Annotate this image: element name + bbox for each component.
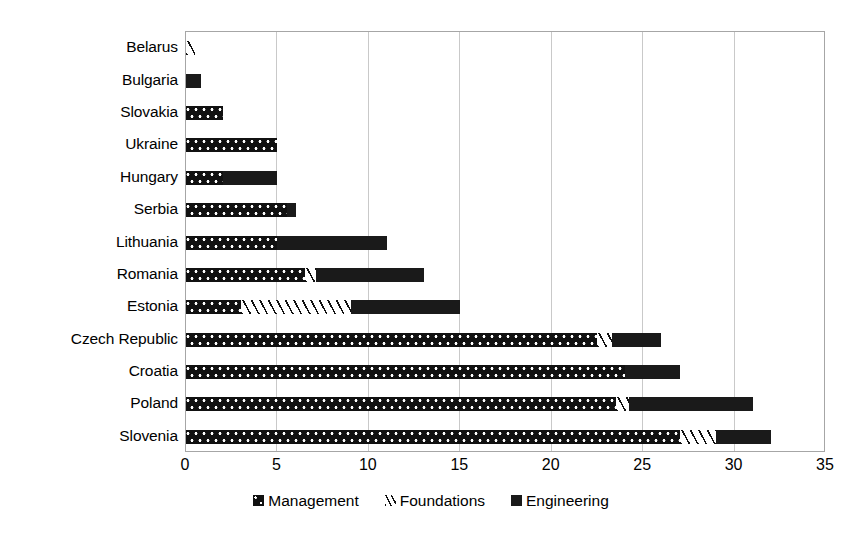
category-label-slovenia: Slovenia bbox=[0, 428, 178, 444]
bar-segment-engineering[interactable] bbox=[625, 365, 680, 379]
solid-swatch bbox=[511, 495, 522, 506]
category-label-croatia: Croatia bbox=[0, 363, 178, 379]
bar-segment-foundations[interactable] bbox=[597, 333, 612, 347]
bar-segment-engineering[interactable] bbox=[223, 171, 278, 185]
cross-hatch-swatch bbox=[253, 495, 264, 506]
category-label-estonia: Estonia bbox=[0, 298, 178, 314]
bar-row[interactable] bbox=[186, 74, 826, 88]
bar-segment-engineering[interactable] bbox=[287, 203, 296, 217]
bar-segment-management[interactable] bbox=[186, 397, 616, 411]
x-axis-tick-labels: 05101520253035 bbox=[0, 457, 862, 481]
bar-segment-management[interactable] bbox=[186, 430, 680, 444]
category-label-bulgaria: Bulgaria bbox=[0, 72, 178, 88]
bar-row[interactable] bbox=[186, 138, 826, 152]
legend-item-engineering[interactable]: Engineering bbox=[511, 493, 609, 509]
x-axis-tick-0: 0 bbox=[181, 457, 190, 473]
bar-segment-engineering[interactable] bbox=[629, 397, 753, 411]
bar-segment-management[interactable] bbox=[186, 268, 305, 282]
bar-row[interactable] bbox=[186, 397, 826, 411]
x-axis-tick-15: 15 bbox=[450, 457, 468, 473]
bar-segment-foundations[interactable] bbox=[186, 41, 195, 55]
bar-segment-engineering[interactable] bbox=[612, 333, 661, 347]
category-axis-labels: BelarusBulgariaSlovakiaUkraineHungarySer… bbox=[0, 31, 178, 452]
bars-layer bbox=[186, 32, 824, 451]
bar-row[interactable] bbox=[186, 203, 826, 217]
bar-row[interactable] bbox=[186, 236, 826, 250]
x-axis-tick-30: 30 bbox=[725, 457, 743, 473]
legend-label: Engineering bbox=[526, 493, 609, 509]
bar-row[interactable] bbox=[186, 365, 826, 379]
bar-segment-management[interactable] bbox=[186, 203, 287, 217]
category-label-czech-republic: Czech Republic bbox=[0, 331, 178, 347]
bar-segment-management[interactable] bbox=[186, 300, 241, 314]
x-axis-tick-35: 35 bbox=[816, 457, 834, 473]
chart-legend: ManagementFoundationsEngineering bbox=[0, 493, 862, 509]
stacked-bar-chart: BelarusBulgariaSlovakiaUkraineHungarySer… bbox=[0, 0, 862, 542]
legend-label: Foundations bbox=[400, 493, 485, 509]
bar-segment-engineering[interactable] bbox=[277, 236, 387, 250]
x-axis-tick-10: 10 bbox=[359, 457, 377, 473]
x-axis-tick-25: 25 bbox=[633, 457, 651, 473]
bar-segment-management[interactable] bbox=[186, 138, 277, 152]
bar-row[interactable] bbox=[186, 41, 826, 55]
bar-segment-management[interactable] bbox=[186, 236, 277, 250]
category-label-poland: Poland bbox=[0, 395, 178, 411]
bar-segment-management[interactable] bbox=[186, 171, 223, 185]
category-label-lithuania: Lithuania bbox=[0, 234, 178, 250]
bar-row[interactable] bbox=[186, 300, 826, 314]
bar-segment-foundations[interactable] bbox=[680, 430, 717, 444]
x-axis-tick-20: 20 bbox=[542, 457, 560, 473]
category-label-hungary: Hungary bbox=[0, 169, 178, 185]
legend-item-foundations[interactable]: Foundations bbox=[385, 493, 485, 509]
x-axis-tick-5: 5 bbox=[272, 457, 281, 473]
bar-row[interactable] bbox=[186, 333, 826, 347]
bar-segment-management[interactable] bbox=[186, 333, 597, 347]
bar-segment-foundations[interactable] bbox=[616, 397, 629, 411]
bar-row[interactable] bbox=[186, 430, 826, 444]
category-label-romania: Romania bbox=[0, 266, 178, 282]
legend-item-management[interactable]: Management bbox=[253, 493, 358, 509]
bar-segment-engineering[interactable] bbox=[351, 300, 461, 314]
bar-row[interactable] bbox=[186, 268, 826, 282]
bar-segment-management[interactable] bbox=[186, 106, 223, 120]
bar-segment-foundations[interactable] bbox=[241, 300, 351, 314]
category-label-slovakia: Slovakia bbox=[0, 104, 178, 120]
legend-label: Management bbox=[268, 493, 358, 509]
category-label-serbia: Serbia bbox=[0, 201, 178, 217]
bar-segment-management[interactable] bbox=[186, 365, 625, 379]
bar-segment-foundations[interactable] bbox=[305, 268, 316, 282]
bar-segment-engineering[interactable] bbox=[316, 268, 424, 282]
bar-row[interactable] bbox=[186, 171, 826, 185]
category-label-belarus: Belarus bbox=[0, 39, 178, 55]
bar-segment-engineering[interactable] bbox=[716, 430, 771, 444]
category-label-ukraine: Ukraine bbox=[0, 136, 178, 152]
diagonal-stripe-swatch bbox=[385, 495, 396, 506]
bar-segment-engineering[interactable] bbox=[186, 74, 201, 88]
bar-row[interactable] bbox=[186, 106, 826, 120]
